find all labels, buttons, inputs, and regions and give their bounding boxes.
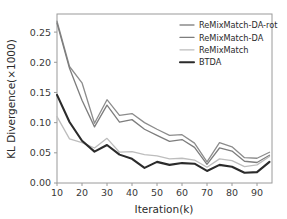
x-tick-label: 70 (201, 187, 213, 198)
x-tick-label: 80 (226, 187, 238, 198)
y-tick-label: 0.10 (30, 117, 51, 128)
chart-legend: ReMixMatch-DA-rotReMixMatch-DAReMixMatch… (180, 20, 278, 67)
x-tick-label: 20 (76, 187, 88, 198)
series-line-remixmatch (57, 117, 270, 168)
y-tick-label: 0.25 (30, 27, 51, 38)
x-tick-label: 90 (251, 187, 263, 198)
y-tick-label: 0.15 (30, 87, 51, 98)
x-axis-title: Iteration(k) (135, 203, 194, 215)
x-tick-label: 30 (101, 187, 113, 198)
y-tick-label: 0.05 (30, 147, 51, 158)
legend-label-remixmatch-da-rot: ReMixMatch-DA-rot (199, 20, 278, 30)
legend-label-btda: BTDA (199, 57, 222, 67)
x-tick-label: 40 (126, 187, 138, 198)
line-chart: 1020304050607080900.000.050.100.150.200.… (0, 0, 287, 219)
x-tick-label: 10 (51, 187, 63, 198)
y-axis-title: KL Divergence(×1000) (5, 39, 17, 159)
x-tick-label: 60 (176, 187, 188, 198)
x-tick-label: 50 (151, 187, 163, 198)
y-tick-label: 0.00 (30, 177, 51, 188)
y-tick-label: 0.20 (30, 57, 51, 68)
chart-figure: 1020304050607080900.000.050.100.150.200.… (0, 0, 287, 219)
legend-label-remixmatch-da: ReMixMatch-DA (199, 33, 264, 43)
legend-label-remixmatch: ReMixMatch (199, 45, 249, 55)
